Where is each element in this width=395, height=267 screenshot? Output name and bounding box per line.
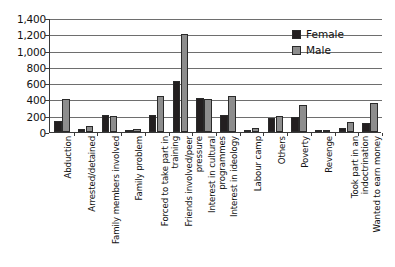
x-axis-label: Family members involved (112, 136, 122, 244)
x-axis-label-line: Wanted to earn money (373, 136, 383, 232)
legend-item-male: Male (292, 44, 378, 57)
y-axis-tick-label: 600 (0, 79, 46, 90)
bar-group (263, 18, 287, 132)
bar-group (74, 18, 98, 132)
y-axis-tick-label: 1,400 (0, 14, 46, 25)
y-axis-tick-mark (45, 133, 49, 134)
bar-female (102, 115, 109, 132)
bar-male (276, 116, 283, 132)
x-axis-label: Abduction (64, 136, 74, 179)
bar-male (110, 116, 117, 132)
x-axis-label: Revenge (325, 136, 335, 173)
bar-group (145, 18, 169, 132)
x-axis-label: Family problem (135, 136, 145, 201)
bar-chart: 1,4001,2001,0008006004002000 FemaleMale … (0, 0, 395, 267)
bar-female (78, 129, 85, 132)
bar-male (157, 96, 164, 132)
x-axis-label: Arrested/detained (88, 136, 98, 212)
bar-group (121, 18, 145, 132)
x-axis-label-line: Family problem (135, 136, 145, 201)
chart-legend: FemaleMale (292, 28, 378, 60)
x-axis-label: Others (278, 136, 288, 164)
x-axis-label-line: Poverty (301, 136, 311, 168)
y-axis-tick-label: 200 (0, 112, 46, 123)
x-axis-label-line: training (171, 136, 181, 226)
legend-swatch-icon (292, 46, 301, 55)
x-axis-label-line: Revenge (325, 136, 335, 173)
y-axis-tick-label: 800 (0, 63, 46, 74)
x-axis-label-line: Labour camp (254, 136, 264, 191)
y-axis-tick-label: 400 (0, 95, 46, 106)
bar-group (216, 18, 240, 132)
x-axis-label-line: pressure (194, 136, 204, 226)
bar-female (244, 130, 251, 132)
legend-label: Male (306, 45, 331, 56)
bar-female (315, 130, 322, 132)
bar-female (54, 121, 61, 132)
bar-female (125, 130, 132, 132)
bar-female (339, 128, 346, 132)
x-axis-label-line: Others (278, 136, 288, 164)
bar-male (86, 126, 93, 132)
bar-male (323, 130, 330, 132)
x-axis: AbductionArrested/detainedFamily members… (49, 136, 381, 264)
bar-male (204, 99, 211, 132)
bar-female (196, 98, 203, 132)
bar-female (173, 81, 180, 132)
x-axis-label: Wanted to earn money (373, 136, 383, 232)
y-axis-tick-label: 0 (0, 128, 46, 139)
x-axis-label-line: Abduction (64, 136, 74, 179)
x-axis-label-line: programmes (218, 136, 228, 213)
x-axis-label: Friends involved/peerpressure (185, 136, 204, 226)
bar-male (181, 34, 188, 132)
x-axis-label: Forced to take part intraining (161, 136, 180, 226)
bar-male (252, 128, 259, 132)
bar-male (370, 103, 377, 132)
bar-male (62, 99, 69, 132)
y-axis-tick-label: 1,200 (0, 30, 46, 41)
y-axis: 1,4001,2001,0008006004002000 (0, 0, 46, 152)
x-axis-label: Interest in culturalprogrammes (208, 136, 227, 213)
x-axis-label-line: Arrested/detained (88, 136, 98, 212)
legend-label: Female (306, 29, 344, 40)
bar-group (169, 18, 193, 132)
x-axis-label-line: Family members involved (112, 136, 122, 244)
bar-group (192, 18, 216, 132)
bar-group (97, 18, 121, 132)
x-axis-label-line: indoctrination (360, 136, 370, 198)
bar-female (291, 117, 298, 132)
y-axis-tick-label: 1,000 (0, 47, 46, 58)
bar-male (347, 122, 354, 132)
bar-female (362, 123, 369, 132)
bar-male (133, 129, 140, 132)
bar-female (268, 118, 275, 132)
x-axis-label: Labour camp (254, 136, 264, 191)
x-axis-label-line: Friends involved/peer (185, 136, 195, 226)
bar-group (50, 18, 74, 132)
bar-female (149, 115, 156, 132)
bar-male (299, 105, 306, 132)
legend-swatch-icon (292, 30, 301, 39)
x-axis-label-line: Interest in ideology (230, 136, 240, 217)
bar-female (220, 115, 227, 132)
x-axis-label-line: Took part in an (351, 136, 361, 198)
x-axis-label: Interest in ideology (230, 136, 240, 217)
legend-item-female: Female (292, 28, 378, 41)
x-axis-label: Took part in anindoctrination (351, 136, 370, 198)
bar-group (240, 18, 264, 132)
x-axis-label: Poverty (301, 136, 311, 168)
bar-male (228, 96, 235, 132)
